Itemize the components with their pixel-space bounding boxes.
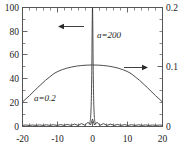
x-tick-minus-10: -10 bbox=[51, 134, 64, 144]
y-right-tick-0-1: 0.1 bbox=[166, 62, 178, 72]
chart-figure: a=200 a=0.2 100 80 60 40 20 0 0.2 0.1 0 … bbox=[0, 0, 188, 154]
y-left-tick-60: 60 bbox=[10, 50, 20, 60]
x-tick-20: 20 bbox=[158, 134, 168, 144]
y-left-tick-40: 40 bbox=[10, 74, 20, 84]
x-tick-10: 10 bbox=[123, 134, 133, 144]
y-right-tick-0: 0 bbox=[166, 122, 171, 132]
y-left-tick-100: 100 bbox=[5, 3, 20, 13]
x-tick-0: 0 bbox=[90, 134, 95, 144]
y-left-tick-0: 0 bbox=[14, 122, 19, 132]
curve-label-a200: a=200 bbox=[97, 30, 122, 40]
y-right-tick-0-2: 0.2 bbox=[166, 3, 178, 13]
chart-background bbox=[0, 0, 188, 154]
y-left-tick-80: 80 bbox=[10, 27, 20, 37]
x-tick-minus-20: -20 bbox=[16, 134, 29, 144]
y-left-tick-20: 20 bbox=[10, 98, 20, 108]
chart-canvas: a=200 a=0.2 100 80 60 40 20 0 0.2 0.1 0 … bbox=[0, 0, 188, 154]
curve-label-a02: a=0.2 bbox=[34, 93, 56, 103]
